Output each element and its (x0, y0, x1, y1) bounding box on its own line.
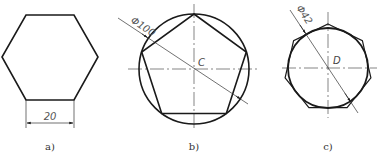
figure-caption-c: c) (323, 141, 333, 152)
diagram-canvas: 20 a) Φ100 C b) Φ42 D c) (0, 0, 377, 157)
center-label: D (333, 55, 341, 66)
diameter-leader-line (118, 18, 248, 104)
diameter-arrow-bottom (345, 93, 351, 101)
figure-caption-a: a) (45, 141, 55, 152)
diameter-arrow-top (300, 25, 306, 33)
figure-c: Φ42 D c) (282, 3, 377, 152)
dimension-label: 20 (44, 111, 57, 122)
figure-b: Φ100 C b) (118, 4, 258, 152)
figure-caption-b: b) (189, 141, 199, 152)
figure-a: 20 a) (2, 15, 98, 152)
diameter-arrow-bottom (236, 96, 241, 99)
hexagon-shape (2, 15, 98, 100)
center-label: C (198, 57, 205, 68)
diameter-label: Φ42 (294, 3, 315, 26)
